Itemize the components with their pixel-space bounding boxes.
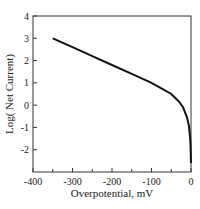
x-tick-label: -100: [142, 176, 160, 187]
x-tick-label: -200: [103, 176, 121, 187]
y-tick-label: 2: [24, 55, 29, 66]
y-tick-label: -2: [21, 144, 29, 155]
y-tick-label: -1: [21, 122, 29, 133]
y-tick-label: 4: [24, 11, 29, 22]
x-axis-ticks: -400-300-200-1000: [24, 168, 194, 187]
x-tick-label: -300: [63, 176, 81, 187]
chart: -2-101234 -400-300-200-1000 Overpotentia…: [0, 0, 200, 209]
y-axis-ticks: -2-101234: [21, 11, 37, 156]
y-tick-label: 3: [24, 33, 29, 44]
x-axis-title: Overpotential, mV: [71, 187, 154, 199]
y-tick-label: 1: [24, 77, 29, 88]
y-tick-label: 0: [24, 100, 29, 111]
y-axis-title: Log( Net Current): [3, 54, 16, 134]
data-line: [53, 38, 191, 163]
x-tick-label: 0: [189, 176, 194, 187]
x-tick-label: -400: [24, 176, 42, 187]
